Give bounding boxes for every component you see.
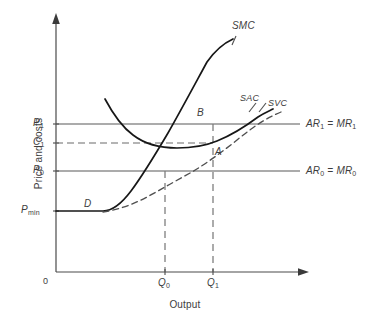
sac-leader — [249, 103, 256, 112]
y-tick-label-c1: C1 — [33, 136, 45, 147]
svc-curve — [103, 112, 281, 212]
point-d-label: D — [84, 198, 91, 209]
y-tick-label-p1: P1 — [33, 117, 44, 128]
x-axis-title: Output — [140, 299, 230, 310]
smc-curve — [56, 39, 233, 211]
point-a-label: A — [215, 146, 222, 157]
origin-label: 0 — [43, 276, 48, 286]
ar1-mr1-label: AR1 = MR1 — [306, 118, 356, 129]
y-tick-label-pmin: Pmin — [21, 204, 40, 215]
smc-leader — [232, 36, 236, 45]
sac-curve-label: SAC — [240, 93, 259, 103]
x-axis-arrowhead — [298, 268, 309, 276]
economics-cost-curve-figure: Price and costs Output 0 P1 C1 P0 Pmin Q… — [0, 0, 370, 324]
x-tick-label-q0: Q0 — [158, 277, 170, 288]
y-axis-title: Price and costs — [33, 99, 44, 209]
smc-curve-label: SMC — [232, 20, 255, 31]
svc-leader — [259, 103, 266, 112]
point-b-label: B — [197, 107, 204, 118]
svc-curve-label: SVC — [268, 98, 287, 108]
y-axis-arrowhead — [52, 13, 60, 24]
y-tick-label-p0: P0 — [33, 164, 44, 175]
plot-canvas — [0, 0, 370, 324]
x-tick-label-q1: Q1 — [207, 277, 219, 288]
axes-group — [52, 13, 309, 276]
ar0-mr0-label: AR0 = MR0 — [306, 165, 356, 176]
